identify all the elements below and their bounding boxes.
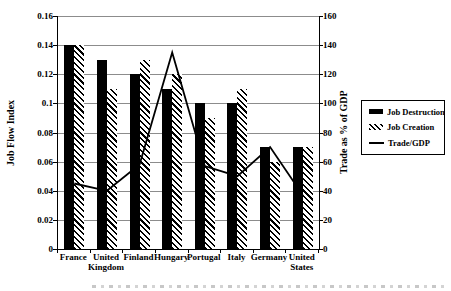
cropped-caption-artifact bbox=[92, 285, 449, 288]
legend-label-job-creation: Job Creation bbox=[387, 122, 434, 132]
left-axis-tick-label: 0.12 bbox=[20, 69, 53, 79]
left-axis-tick-label: 0.16 bbox=[20, 11, 53, 21]
legend-entry-job-creation: Job Creation bbox=[369, 122, 444, 132]
right-axis-tick-label: 140 bbox=[323, 40, 353, 50]
trade-gdp-line bbox=[58, 16, 319, 249]
legend-label-trade-gdp: Trade/GDP bbox=[388, 138, 430, 148]
left-axis-tick bbox=[53, 220, 57, 221]
right-axis-tick-label: 120 bbox=[323, 69, 353, 79]
legend: Job Destruction Job Creation Trade/GDP bbox=[361, 100, 445, 155]
job-creation-swatch-icon bbox=[369, 124, 383, 130]
left-axis-tick-label: 0.06 bbox=[20, 157, 53, 167]
legend-label-job-destruction: Job Destruction bbox=[387, 107, 445, 117]
left-axis-tick-label: 0.04 bbox=[20, 186, 53, 196]
right-axis-tick-label: 80 bbox=[323, 128, 353, 138]
left-axis-tick bbox=[53, 191, 57, 192]
right-axis-tick-label: 60 bbox=[323, 157, 353, 167]
right-axis-tick-label: 40 bbox=[323, 186, 353, 196]
trade-gdp-swatch-icon bbox=[369, 142, 384, 144]
plot-area bbox=[57, 16, 320, 250]
right-axis-tick-label: 160 bbox=[323, 11, 353, 21]
left-axis-tick-label: 0.08 bbox=[20, 128, 53, 138]
left-axis-tick bbox=[53, 162, 57, 163]
legend-entry-job-destruction: Job Destruction bbox=[369, 107, 444, 117]
left-axis-tick bbox=[53, 74, 57, 75]
left-axis-title: Job Flow Index bbox=[3, 16, 17, 249]
right-axis-tick-label: 0 bbox=[323, 244, 353, 254]
job-destruction-swatch-icon bbox=[369, 109, 383, 114]
left-axis-tick-label: 0.1 bbox=[20, 98, 53, 108]
right-axis-tick-label: 100 bbox=[323, 98, 353, 108]
left-axis-tick bbox=[53, 45, 57, 46]
left-axis-tick-label: 0.14 bbox=[20, 40, 53, 50]
left-axis-tick-label: 0 bbox=[20, 244, 53, 254]
x-category-label: United States bbox=[279, 252, 325, 272]
left-axis-tick bbox=[53, 16, 57, 17]
right-axis-tick-label: 20 bbox=[323, 215, 353, 225]
left-axis-tick bbox=[53, 103, 57, 104]
chart-figure: Job Flow Index Trade as % of GDP Job Des… bbox=[0, 0, 451, 291]
left-axis-tick-label: 0.02 bbox=[20, 215, 53, 225]
legend-entry-trade-gdp: Trade/GDP bbox=[369, 138, 444, 148]
left-axis-tick bbox=[53, 133, 57, 134]
